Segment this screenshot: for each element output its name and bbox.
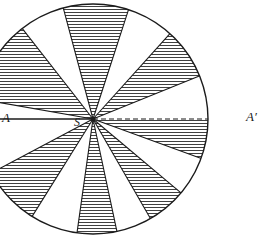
label-a-prime-right: A′ [246,110,257,123]
sector-circle-diagram [0,0,263,241]
figure-container: A A′ S [0,0,263,241]
label-a-left: A [2,111,10,124]
label-s-centre: S [74,116,80,128]
centre-point-s [91,117,95,121]
